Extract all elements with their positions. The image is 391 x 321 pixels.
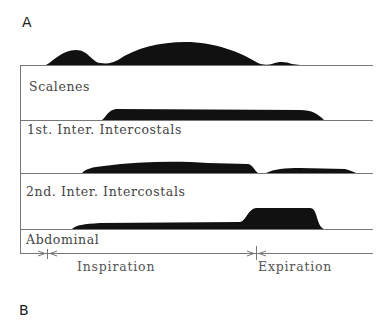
- phase-label-inspiration: Inspiration: [77, 259, 155, 274]
- trace-top: [46, 42, 300, 65]
- trace-2nd-intercostals: [72, 208, 324, 229]
- row-label-abdominal: Abdominal: [26, 232, 99, 247]
- trace-scalenes: [102, 109, 324, 120]
- respiratory-emg-diagram: [0, 0, 391, 321]
- trace-1st-intercostals-exp: [266, 168, 356, 173]
- row-label-scalenes: Scalenes: [29, 79, 90, 94]
- row-label-2nd-intercostals: 2nd. Inter. Intercostals: [26, 184, 186, 199]
- panel-label-b: B: [19, 302, 29, 318]
- row-label-1st-intercostals: 1st. Inter. Intercostals: [27, 122, 182, 137]
- phase-label-expiration: Expiration: [258, 259, 332, 274]
- trace-1st-intercostals: [82, 162, 258, 173]
